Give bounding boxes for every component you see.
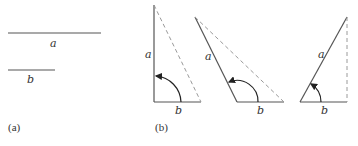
angle-arc-arrow-icon (311, 84, 321, 102)
triangle-right-angle: a b (145, 5, 201, 117)
side-a-label: a (145, 48, 152, 61)
side-b-label: b (321, 104, 328, 117)
panel-b: a b a b a b (b) (145, 5, 347, 134)
angle-arc-arrow-icon (229, 80, 258, 102)
angle-arc-arrow-icon (156, 76, 181, 102)
side-a-label: a (205, 50, 212, 63)
dashed-hypotenuse (154, 5, 201, 102)
segment-a-label: a (50, 37, 57, 50)
triangle-acute-angle: a b (300, 17, 347, 117)
side-a-label: a (318, 48, 325, 61)
panel-a: a b (a) (8, 33, 101, 134)
segment-b-label: b (27, 73, 34, 86)
side-b-label: b (257, 104, 264, 117)
side-b-label: b (175, 104, 182, 117)
triangle-obtuse-angle: a b (195, 17, 284, 117)
figure-canvas: a b (a) a b a b a (0, 0, 358, 146)
panel-a-caption: (a) (8, 121, 21, 134)
side-a (195, 17, 237, 102)
panel-b-caption: (b) (155, 121, 168, 134)
